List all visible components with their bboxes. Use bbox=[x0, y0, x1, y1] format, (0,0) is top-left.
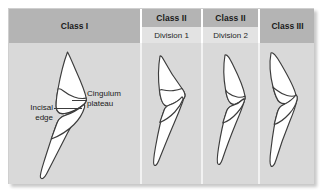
header-cell-class-3: Class III bbox=[260, 9, 314, 43]
figure-body: Incisal edge Cingulum plateau bbox=[9, 43, 314, 184]
leader-line-incisal-edge bbox=[54, 108, 82, 109]
header-subtitle-class-2-div-1: Division 1 bbox=[142, 27, 201, 43]
header-subtitle-class-2-div-2: Division 2 bbox=[203, 27, 258, 43]
header-cell-class-1: Class I bbox=[9, 9, 140, 43]
annotation-incisal-edge-line1: Incisal bbox=[13, 103, 53, 113]
annotation-incisal-edge-line2: edge bbox=[13, 113, 53, 123]
tooth-diagram-class-2-div-2 bbox=[203, 43, 258, 184]
annotation-cingulum-plateau: Cingulum plateau bbox=[87, 89, 147, 109]
header-title-class-2-div-1: Class II bbox=[142, 9, 201, 27]
header-cell-class-2-div-1: Class II Division 1 bbox=[142, 9, 201, 43]
tooth-diagram-class-2-div-1 bbox=[142, 43, 201, 184]
header-cell-class-2-div-2: Class II Division 2 bbox=[203, 9, 258, 43]
figure-header: Class I Class II Division 1 Class II Div… bbox=[9, 9, 314, 43]
tooth-diagram-class-3 bbox=[260, 43, 314, 184]
leader-line-cingulum-plateau bbox=[72, 100, 87, 101]
figure-panel: Class I Class II Division 1 Class II Div… bbox=[8, 8, 314, 184]
annotation-incisal-edge: Incisal edge bbox=[13, 103, 53, 123]
header-title-class-3: Class III bbox=[260, 9, 314, 43]
annotation-cingulum-plateau-line1: Cingulum bbox=[87, 89, 147, 99]
header-title-class-1: Class I bbox=[9, 9, 140, 43]
header-title-class-2-div-2: Class II bbox=[203, 9, 258, 27]
annotation-cingulum-plateau-line2: plateau bbox=[87, 99, 147, 109]
